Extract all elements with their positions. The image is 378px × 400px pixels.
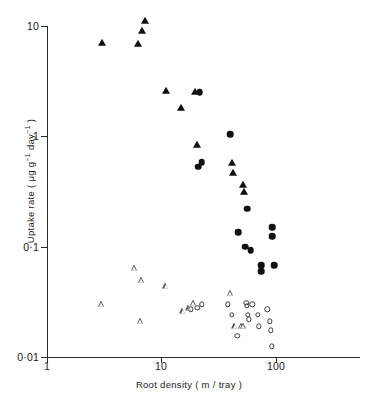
y-tick-0-1: [41, 247, 47, 248]
data-point-open-triangle: [163, 282, 169, 288]
x-axis-line: [47, 357, 360, 358]
y-tick-1: [41, 136, 47, 137]
data-point-filled-triangle: [141, 17, 149, 24]
data-point-filled-circle: [244, 206, 251, 213]
data-point-filled-triangle: [239, 181, 247, 188]
x-tick-label-1: 1: [44, 360, 50, 372]
data-point-filled-triangle: [98, 39, 106, 46]
data-point-open-triangle: [131, 264, 137, 270]
data-point-open-circle: [199, 302, 204, 307]
data-point-open-triangle: [227, 289, 233, 295]
data-point-open-triangle: [99, 301, 105, 307]
data-point-filled-triangle: [240, 188, 248, 195]
data-point-open-circle: [268, 327, 273, 332]
data-point-filled-circle: [269, 233, 276, 240]
y-tick-label-0-01: 0·01: [17, 351, 39, 363]
data-point-open-circle: [267, 319, 272, 324]
y-title-unit-a: μg g: [25, 162, 36, 182]
data-point-filled-circle: [199, 159, 206, 166]
y-tick-label-10: 10: [27, 20, 39, 32]
y-axis-title: Uptake rate ( μg g−1 day−1 ): [24, 71, 36, 291]
data-point-filled-circle: [247, 247, 254, 254]
data-point-filled-circle: [235, 229, 242, 236]
y-title-sup-a: −1: [24, 153, 31, 162]
data-point-open-circle: [255, 312, 260, 317]
y-axis-line: [47, 26, 48, 358]
data-point-open-triangle: [139, 276, 145, 282]
data-point-open-circle: [188, 307, 193, 312]
data-point-filled-triangle: [193, 141, 201, 148]
data-point-open-triangle: [240, 323, 246, 329]
data-point-filled-triangle: [138, 27, 146, 34]
x-tick-label-100: 100: [267, 360, 285, 372]
y-title-sup-b: −1: [24, 125, 31, 134]
data-point-open-triangle: [138, 318, 144, 324]
x-axis-title: Root density ( m / tray ): [0, 379, 378, 390]
data-point-open-circle: [265, 307, 270, 312]
y-title-close: ): [25, 119, 36, 125]
data-point-filled-circle: [258, 268, 265, 275]
data-point-filled-triangle: [229, 168, 237, 175]
data-point-filled-triangle: [134, 40, 142, 47]
data-point-open-circle: [235, 333, 240, 338]
data-point-filled-triangle: [162, 86, 170, 93]
data-point-filled-circle: [196, 89, 203, 96]
data-point-open-circle: [229, 312, 234, 317]
data-point-filled-triangle: [177, 104, 185, 111]
data-point-filled-circle: [227, 131, 234, 138]
data-point-filled-circle: [271, 262, 278, 269]
data-point-open-circle: [246, 317, 251, 322]
y-tick-10: [41, 26, 47, 27]
data-point-open-circle: [225, 302, 230, 307]
data-point-open-circle: [256, 324, 261, 329]
data-point-open-circle: [250, 302, 255, 307]
y-title-unit-b: day: [25, 134, 36, 153]
x-tick-label-10: 10: [155, 360, 167, 372]
data-point-filled-circle: [269, 224, 276, 231]
data-point-filled-triangle: [228, 159, 236, 166]
y-title-text-a: Uptake rate (: [25, 182, 36, 244]
scatter-plot-figure: 10 1 0·1 0·01 1 10 100 Root density ( m …: [0, 0, 378, 400]
data-point-open-circle: [269, 344, 274, 349]
